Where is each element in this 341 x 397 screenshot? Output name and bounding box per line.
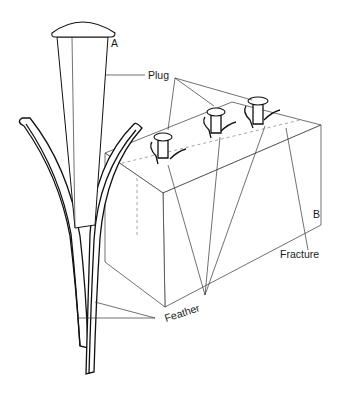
label-fracture: Fracture — [280, 248, 319, 260]
plug-head — [207, 108, 225, 116]
plug-leader-1 — [168, 78, 175, 130]
label-point-b: B — [313, 208, 320, 220]
plug-leader-3 — [175, 78, 252, 100]
label-plug: Plug — [148, 69, 169, 81]
plug-and-feather-diagram: A Plug B Fracture Feather — [0, 0, 341, 397]
plug-head — [248, 97, 268, 105]
plug-leader-2 — [175, 78, 214, 106]
label-point-a: A — [111, 37, 118, 49]
plug-head — [52, 22, 115, 37]
plug-head — [154, 133, 172, 141]
feather-leader-4 — [95, 302, 155, 318]
